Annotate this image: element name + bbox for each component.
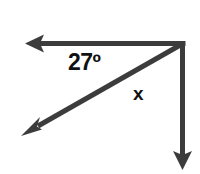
unknown-angle-label: x — [133, 83, 144, 105]
ray-down-vertical — [173, 44, 192, 171]
ray-down-diagonal-line — [38, 44, 183, 127]
angle-diagram-canvas: 27º x — [0, 0, 200, 174]
vertex-point — [181, 41, 186, 46]
angle-figure-svg — [0, 0, 200, 174]
ray-left-horizontal — [25, 35, 183, 53]
ray-down-diagonal — [21, 44, 183, 137]
angle-measure-label: 27º — [68, 49, 100, 76]
